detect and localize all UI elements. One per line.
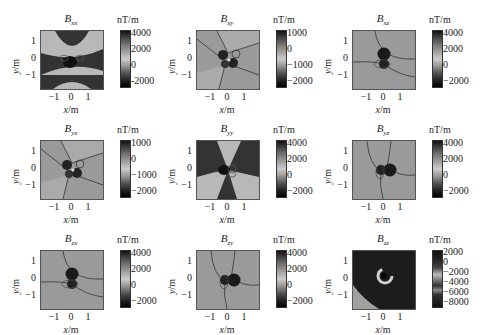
colorbar-tick: 2000: [443, 43, 463, 54]
y-tick: 1: [334, 35, 348, 46]
x-tick: 1: [236, 201, 252, 212]
colorbar-tick: 0: [287, 43, 292, 54]
colorbar-tick: 4000: [131, 247, 151, 258]
x-axis-label: x/m: [51, 324, 91, 335]
colorbar-tick: 4000: [131, 27, 151, 38]
x-tick: −1: [46, 91, 62, 102]
colorbar-unit: nT/m: [273, 234, 295, 245]
y-axis-label: y/m: [322, 279, 333, 294]
colorbar-tick: −2000: [131, 185, 157, 196]
x-tick: −1: [46, 201, 62, 212]
x-tick: 0: [375, 311, 391, 322]
contour-map: [40, 140, 104, 200]
colorbar: [120, 30, 131, 88]
colorbar-unit: nT/m: [117, 124, 139, 135]
colorbar-tick: 0: [287, 169, 292, 180]
colorbar-tick: −2000: [131, 295, 157, 306]
panel-Bzz: Bzzy/m10−1−101x/mnT/m20000−2000−4000−600…: [320, 220, 480, 330]
colorbar-tick: 0: [287, 279, 292, 290]
panel-Byz: Byzy/m10−1−101x/mnT/m400020000−2000: [320, 110, 480, 220]
x-tick: 0: [63, 201, 79, 212]
colorbar-unit: nT/m: [117, 234, 139, 245]
x-tick: −1: [358, 91, 374, 102]
y-axis-label: y/m: [10, 59, 21, 74]
x-tick: 0: [63, 91, 79, 102]
y-tick: 0: [22, 162, 36, 173]
x-tick: 0: [375, 91, 391, 102]
x-tick: 1: [80, 201, 96, 212]
y-tick: −1: [22, 289, 36, 300]
y-tick: 0: [178, 52, 192, 63]
panel-Byy: Byyy/m10−1−101x/mnT/m400020000−2000: [160, 110, 320, 220]
y-tick: 1: [22, 255, 36, 266]
x-tick: −1: [202, 91, 218, 102]
colorbar-tick: 1000: [287, 27, 307, 38]
colorbar-tick: −8000: [443, 296, 469, 307]
colorbar-tick: 1000: [131, 137, 151, 148]
y-axis-label: y/m: [10, 169, 21, 184]
x-tick: 0: [219, 311, 235, 322]
colorbar-tick: −1000: [131, 169, 157, 180]
colorbar-unit: nT/m: [429, 234, 451, 245]
colorbar: [432, 250, 443, 308]
y-tick: −1: [178, 179, 192, 190]
panel-Byx: Byxy/m10−1−101x/mnT/m10000−1000−2000: [0, 110, 160, 220]
colorbar-tick: −2000: [287, 295, 313, 306]
colorbar-tick: 2000: [287, 263, 307, 274]
panel-Bxx: Bxxy/m10−1−101x/mnT/m400020000-2000: [0, 0, 160, 110]
colorbar: [276, 140, 287, 198]
colorbar-tick: 2000: [287, 153, 307, 164]
colorbar-tick: 0: [131, 59, 136, 70]
y-tick: 1: [178, 145, 192, 156]
panel-title: Bzy: [192, 232, 262, 247]
panel-Bxy: Bxyy/m10−1−101x/mnT/m10000−1000−2000: [160, 0, 320, 110]
panel-title: Bxx: [36, 12, 106, 27]
colorbar-tick: -2000: [131, 75, 154, 86]
colorbar-unit: nT/m: [273, 124, 295, 135]
y-tick: −1: [334, 289, 348, 300]
contour-map: [352, 30, 416, 90]
x-tick: 1: [80, 311, 96, 322]
x-tick: −1: [202, 311, 218, 322]
y-axis-label: y/m: [166, 279, 177, 294]
colorbar-tick: 0: [131, 279, 136, 290]
x-axis-label: x/m: [363, 324, 403, 335]
y-tick: 0: [178, 162, 192, 173]
colorbar: [432, 30, 443, 88]
panel-Bzx: Bzxy/m10−1−101x/mnT/m400020000−2000: [0, 220, 160, 330]
colorbar-tick: −1000: [287, 59, 313, 70]
x-tick: 1: [80, 91, 96, 102]
y-tick: 0: [178, 272, 192, 283]
colorbar: [120, 140, 131, 198]
colorbar-tick: 2000: [443, 153, 463, 164]
x-tick: 1: [392, 201, 408, 212]
colorbar-tick: 2000: [131, 43, 151, 54]
x-tick: 0: [219, 91, 235, 102]
y-tick: 1: [178, 255, 192, 266]
y-tick: 0: [334, 272, 348, 283]
x-tick: −1: [46, 311, 62, 322]
x-tick: 1: [392, 311, 408, 322]
colorbar-unit: nT/m: [117, 14, 139, 25]
panel-title: Bxy: [192, 12, 262, 27]
y-tick: 0: [334, 52, 348, 63]
y-axis-label: y/m: [10, 279, 21, 294]
contour-map: [196, 140, 260, 200]
y-tick: −1: [334, 69, 348, 80]
panel-Bxz: Bxzy/m10−1−101x/mnT/m400020000−2000: [320, 0, 480, 110]
y-tick: −1: [22, 179, 36, 190]
contour-map: [352, 250, 416, 310]
colorbar-tick: −2000: [287, 185, 313, 196]
contour-map: [352, 140, 416, 200]
panel-title: Byz: [348, 122, 418, 137]
y-axis-label: y/m: [166, 169, 177, 184]
x-tick: −1: [202, 201, 218, 212]
contour-map: [40, 30, 104, 90]
x-tick: 0: [63, 311, 79, 322]
x-tick: 1: [236, 311, 252, 322]
y-tick: −1: [22, 69, 36, 80]
x-tick: 1: [392, 91, 408, 102]
colorbar-tick: −2000: [443, 185, 469, 196]
x-tick: 1: [236, 91, 252, 102]
colorbar-tick: 4000: [287, 137, 307, 148]
